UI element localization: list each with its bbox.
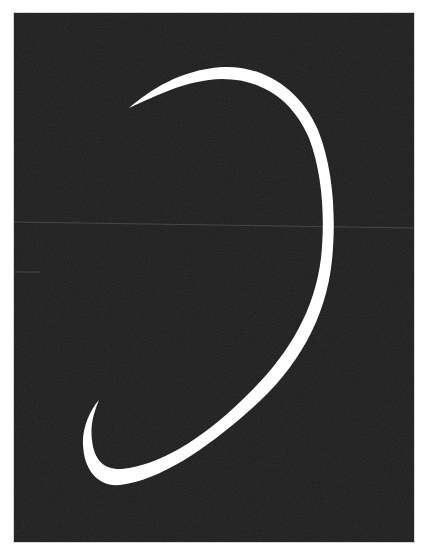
panel-noise [14, 13, 414, 542]
image-description: White curved stroke on black background,… [0, 0, 1, 1]
curve-graphic [14, 13, 414, 542]
image-panel [14, 13, 414, 542]
